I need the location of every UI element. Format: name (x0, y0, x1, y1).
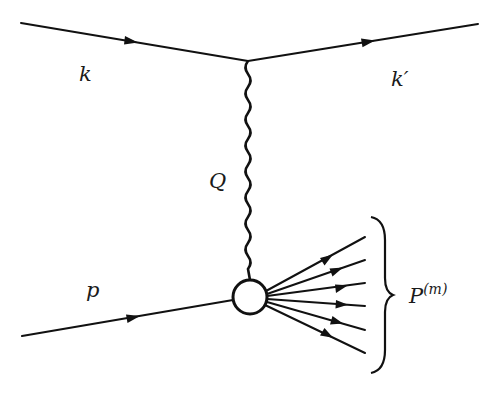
label-q: Q (209, 169, 226, 193)
arrow-icon (330, 316, 343, 325)
arrow-icon (124, 36, 138, 45)
label-p: p (86, 278, 99, 302)
label-k-prime: k′ (391, 67, 409, 91)
outgoing-lepton-line (248, 24, 478, 61)
label-final-state: P(m) (408, 281, 447, 308)
hadronic-vertex-blob (233, 280, 267, 314)
final-state-brace (371, 217, 393, 373)
label-final-state-base: P (408, 284, 424, 308)
final-state-fan (265, 237, 365, 353)
arrow-icon (330, 268, 344, 277)
feynman-diagram: k k′ Q p P(m) (0, 0, 488, 394)
arrow-icon (361, 39, 375, 48)
arrow-icon (336, 300, 349, 309)
incoming-lepton-line (21, 23, 248, 61)
arrow-icon (335, 285, 348, 294)
label-final-state-superscript: (m) (423, 281, 447, 297)
arrow-icon (320, 328, 333, 338)
photon-wavy-line (246, 61, 251, 280)
incoming-hadron-line (22, 300, 233, 336)
arrow-icon (320, 255, 333, 266)
label-k: k (79, 62, 92, 86)
